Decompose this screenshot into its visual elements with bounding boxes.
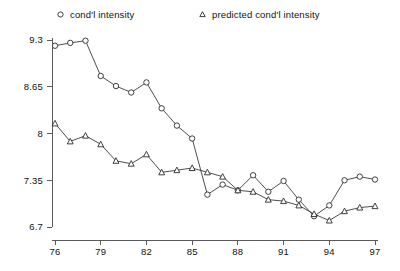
y-tick-label: 6.7 xyxy=(29,221,43,232)
data-point-circle xyxy=(68,40,73,45)
y-axis: 9.38.6587.356.7 xyxy=(24,34,52,232)
data-point-circle xyxy=(159,106,164,111)
data-point-circle xyxy=(357,174,362,179)
data-point-triangle xyxy=(52,120,58,126)
data-point-circle xyxy=(128,90,133,95)
data-point-triangle xyxy=(98,141,104,147)
data-point-circle xyxy=(144,80,149,85)
data-point-circle xyxy=(98,73,103,78)
data-point-circle xyxy=(220,182,225,187)
y-tick-label: 8 xyxy=(38,128,43,139)
data-point-triangle xyxy=(83,133,89,139)
data-point-triangle xyxy=(143,151,149,157)
y-tick-label: 7.35 xyxy=(24,175,43,186)
x-tick-label: 94 xyxy=(324,246,335,257)
series-observed xyxy=(52,38,377,219)
data-point-circle xyxy=(281,178,286,183)
x-tick-label: 85 xyxy=(187,246,198,257)
x-tick-label: 88 xyxy=(232,246,243,257)
chart-container: cond'l intensity predicted cond'l intens… xyxy=(0,0,400,271)
y-tick-label: 8.65 xyxy=(24,81,43,92)
data-point-circle xyxy=(205,192,210,197)
data-point-circle xyxy=(266,189,271,194)
series-line xyxy=(55,41,375,216)
data-point-circle xyxy=(174,123,179,128)
data-point-circle xyxy=(327,203,332,208)
x-axis: 7679828588919497 xyxy=(50,240,381,257)
x-tick-label: 79 xyxy=(95,246,106,257)
data-point-circle xyxy=(189,136,194,141)
data-point-circle xyxy=(342,178,347,183)
data-point-triangle xyxy=(372,203,378,209)
data-point-circle xyxy=(113,83,118,88)
data-point-triangle xyxy=(265,197,271,203)
data-point-circle xyxy=(372,177,377,182)
x-tick-label: 91 xyxy=(278,246,289,257)
data-point-triangle xyxy=(326,217,332,223)
x-tick-label: 82 xyxy=(141,246,152,257)
data-point-circle xyxy=(52,43,57,48)
y-tick-label: 9.3 xyxy=(29,34,43,45)
plot-area: 9.38.6587.356.7 7679828588919497 xyxy=(0,0,400,271)
data-series-group xyxy=(52,38,378,223)
data-point-triangle xyxy=(189,165,195,171)
x-tick-label: 76 xyxy=(50,246,61,257)
x-tick-label: 97 xyxy=(370,246,381,257)
data-point-circle xyxy=(250,173,255,178)
data-point-circle xyxy=(83,38,88,43)
